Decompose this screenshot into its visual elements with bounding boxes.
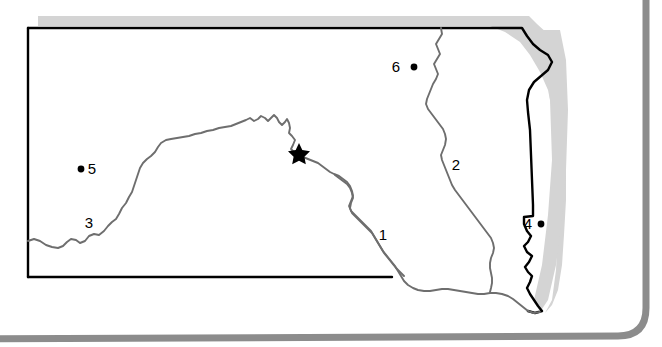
river-network [28, 28, 540, 313]
site-marker-dots [78, 64, 545, 228]
state-drop-shadow [38, 16, 568, 313]
state-boundary [28, 28, 552, 313]
site-dot-4 [538, 221, 545, 228]
capital-star [288, 143, 310, 164]
map-labels: 1 2 3 4 5 6 [85, 58, 532, 243]
site-dot-5 [78, 166, 85, 173]
site-dot-6 [411, 64, 418, 71]
river-label-3: 3 [85, 214, 93, 231]
reference-map: 1 2 3 4 5 6 [0, 0, 662, 347]
site-label-4: 4 [524, 215, 532, 232]
river-label-2: 2 [452, 156, 460, 173]
site-label-5: 5 [88, 160, 96, 177]
river-1 [335, 175, 404, 276]
river-3 [28, 115, 540, 313]
site-label-6: 6 [392, 58, 400, 75]
river-label-1: 1 [379, 226, 387, 243]
figure-root: 1 2 3 4 5 6 [0, 0, 662, 347]
